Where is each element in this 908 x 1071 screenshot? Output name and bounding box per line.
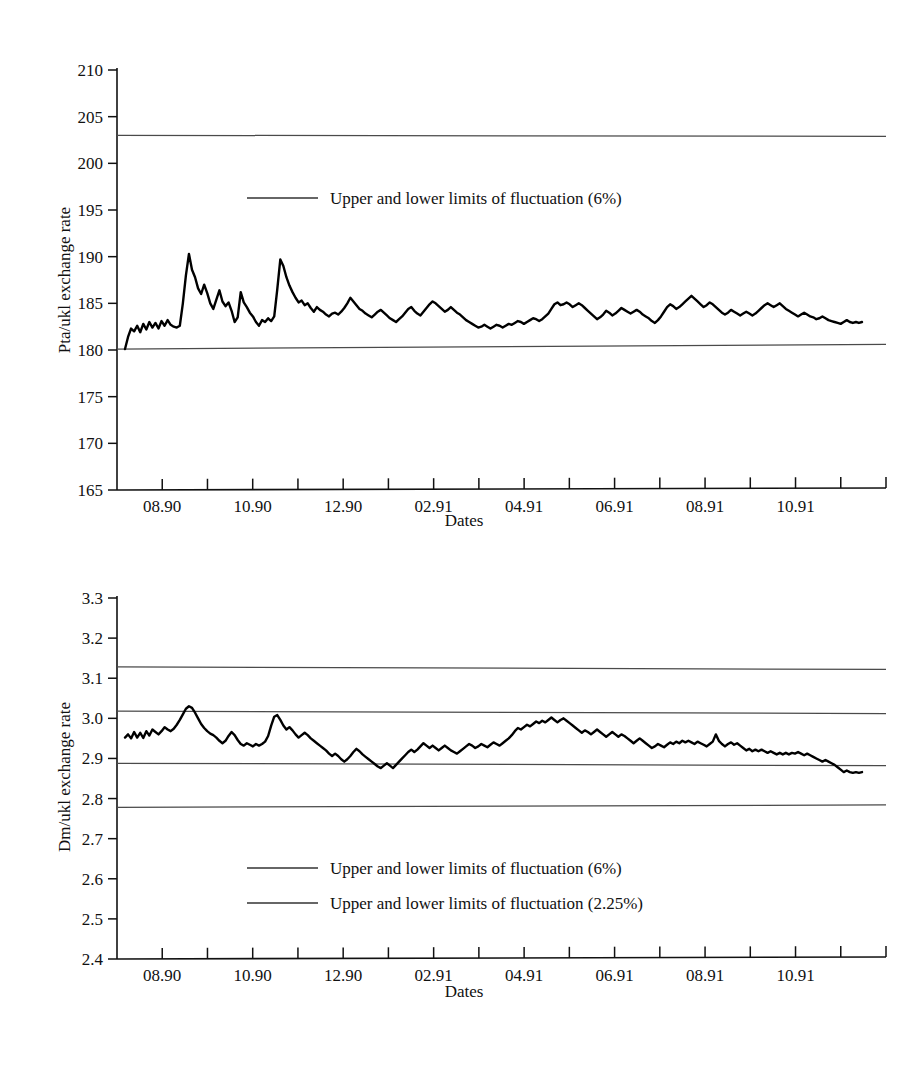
y-tick-label: 3.1 (82, 669, 103, 688)
x-tick-label: 10.90 (234, 966, 272, 985)
limit-line-lower-limit-6pct (117, 344, 886, 349)
y-tick-label: 205 (78, 108, 104, 127)
x-tick-label: 08.91 (686, 966, 724, 985)
y-tick-label: 3.2 (82, 629, 103, 648)
legend-label-6pct-bottom: Upper and lower limits of fluctuation (6… (330, 859, 622, 878)
x-axis-line-top (117, 488, 886, 490)
data-series-line (125, 706, 862, 773)
y-tick-label: 195 (78, 201, 104, 220)
y-tick-label: 185 (78, 294, 104, 313)
y-tick-label: 3.0 (82, 709, 103, 728)
x-tick-label: 04.91 (505, 966, 543, 985)
x-tick-label: 10.91 (776, 497, 814, 516)
y-tick-label: 3.3 (82, 589, 103, 608)
limit-line-lower-limit-2p25pct (117, 763, 886, 765)
y-tick-label: 2.5 (82, 910, 103, 929)
y-axis-group-top: 165170175180185190195200205210 (78, 61, 118, 500)
figure-dm-ukl: 2.42.52.62.72.82.93.03.13.23.3 08.9010.9… (0, 545, 908, 1071)
x-tick-label: 12.90 (324, 497, 362, 516)
y-axis-group-bottom: 2.42.52.62.72.82.93.03.13.23.3 (82, 589, 117, 969)
y-tick-label: 190 (78, 248, 104, 267)
y-axis-title-bottom: Dm/ukl exchange rate (55, 702, 74, 852)
x-tick-group-bottom: 08.9010.9012.9002.9104.9106.9108.9110.91 (143, 946, 886, 985)
legend-label-6pct-top: Upper and lower limits of fluctuation (6… (330, 189, 622, 208)
x-tick-label: 08.90 (143, 966, 181, 985)
x-axis-line-bottom (117, 957, 886, 959)
x-tick-label: 08.91 (686, 497, 724, 516)
limit-line-upper-limit-2p25pct (117, 711, 886, 713)
chart-pta-ukl: 165170175180185190195200205210 08.9010.9… (0, 0, 908, 545)
x-tick-label: 10.91 (776, 966, 814, 985)
y-tick-label: 2.8 (82, 790, 103, 809)
legend-top: Upper and lower limits of fluctuation (6… (247, 189, 622, 208)
x-tick-group-top: 08.9010.9012.9002.9104.9106.9108.9110.91 (143, 477, 886, 516)
limit-line-lower-limit-6pct (117, 805, 886, 807)
y-tick-group-bottom: 2.42.52.62.72.82.93.03.13.23.3 (82, 589, 117, 969)
y-tick-group-top: 165170175180185190195200205210 (78, 61, 118, 500)
legend-bottom: Upper and lower limits of fluctuation (6… (247, 859, 643, 913)
x-axis-title-bottom: Dates (445, 982, 484, 1001)
legend-label-2p25pct-bottom: Upper and lower limits of fluctuation (2… (330, 894, 643, 913)
x-axis-group-top: 08.9010.9012.9002.9104.9106.9108.9110.91 (117, 477, 886, 516)
y-tick-label: 210 (78, 61, 104, 80)
series-group-bottom (125, 706, 862, 773)
y-tick-label: 175 (78, 388, 104, 407)
y-tick-label: 170 (78, 434, 104, 453)
x-tick-label: 04.91 (505, 497, 543, 516)
y-tick-label: 2.7 (82, 830, 104, 849)
x-tick-label: 06.91 (595, 497, 633, 516)
limit-lines-bottom (117, 667, 886, 807)
y-tick-label: 180 (78, 341, 104, 360)
x-axis-group-bottom: 08.9010.9012.9002.9104.9106.9108.9110.91 (117, 946, 886, 985)
figure-pta-ukl: 165170175180185190195200205210 08.9010.9… (0, 0, 908, 545)
y-tick-label: 165 (78, 481, 104, 500)
y-tick-label: 2.6 (82, 870, 103, 889)
chart-dm-ukl: 2.42.52.62.72.82.93.03.13.23.3 08.9010.9… (0, 545, 908, 1071)
series-group-top (125, 254, 862, 349)
x-tick-label: 10.90 (234, 497, 272, 516)
x-tick-label: 08.90 (143, 497, 181, 516)
x-axis-title-top: Dates (445, 511, 484, 530)
limit-line-upper-limit-6pct (117, 135, 886, 136)
y-tick-label: 2.9 (82, 749, 103, 768)
x-tick-label: 06.91 (595, 966, 633, 985)
x-tick-label: 12.90 (324, 966, 362, 985)
limit-line-upper-limit-6pct (117, 667, 886, 669)
y-tick-label: 200 (78, 154, 104, 173)
data-series-line (125, 254, 862, 349)
y-axis-title-top: Pta/ukl exchange rate (55, 207, 74, 353)
y-tick-label: 2.4 (82, 950, 104, 969)
